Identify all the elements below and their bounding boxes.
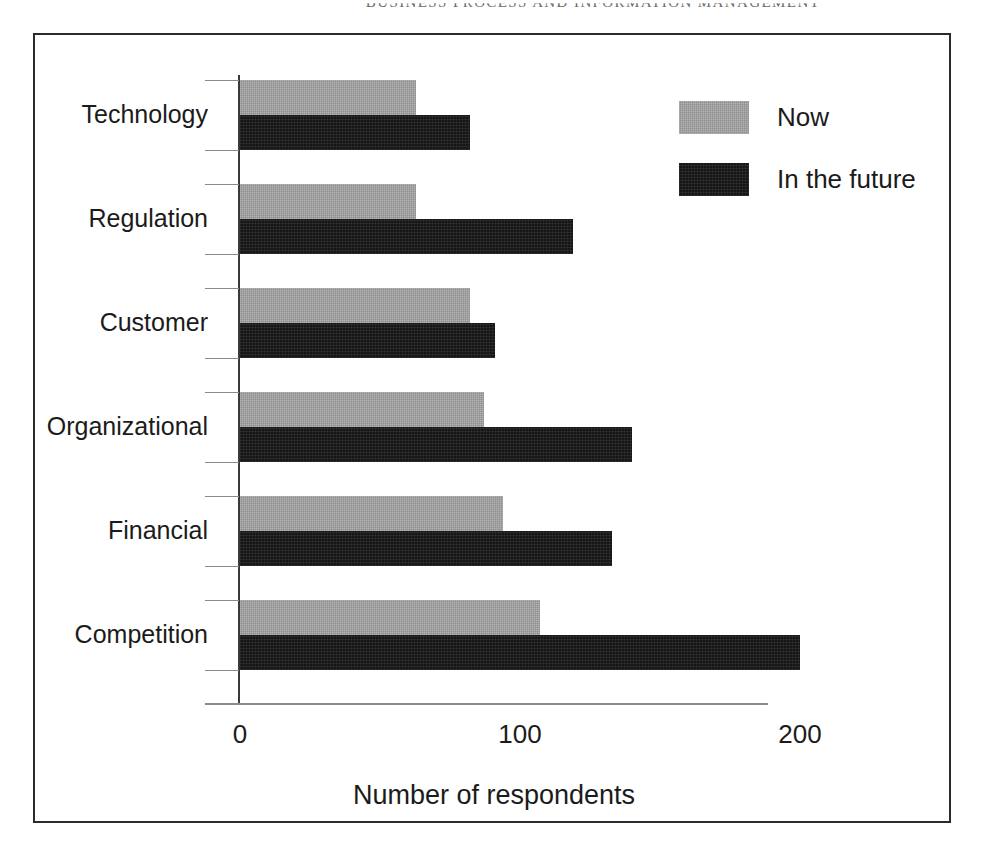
y-axis-tick [205,288,239,289]
bar-competition-now [240,600,540,635]
x-axis-title: Number of respondents [35,780,953,811]
legend-label-future: In the future [777,163,916,195]
y-axis-tick [205,462,239,463]
bar-financial-now [240,496,503,531]
bar-customer-now [240,288,470,323]
y-axis-tick [205,150,239,151]
y-axis-tick [205,392,239,393]
category-label-technology: Technology [82,102,208,127]
legend-item-future[interactable]: In the future [679,155,939,217]
bar-competition-in-the-future [240,635,800,670]
legend-label-now: Now [777,101,829,133]
legend-item-now[interactable]: Now [679,93,939,155]
y-axis-tick [205,496,239,497]
x-tick-label-200: 200 [778,719,821,750]
bar-organizational-now [240,392,484,427]
category-label-regulation: Regulation [88,206,208,231]
figure-frame: TechnologyRegulationCustomerOrganization… [33,33,951,823]
x-axis-line [205,703,768,705]
legend-swatch-now [679,101,749,134]
y-axis-tick [205,254,239,255]
y-axis-tick [205,566,239,567]
chart-legend: NowIn the future [679,93,939,217]
x-tick-label-0: 0 [233,719,247,750]
y-axis-tick [205,670,239,671]
category-label-financial: Financial [108,518,208,543]
bar-technology-in-the-future [240,115,470,150]
bar-regulation-now [240,184,416,219]
y-axis-tick [205,80,239,81]
bar-regulation-in-the-future [240,219,573,254]
legend-swatch-future [679,163,749,196]
x-tick-label-100: 100 [498,719,541,750]
y-axis-tick [205,184,239,185]
y-axis-tick [205,600,239,601]
category-label-organizational: Organizational [47,414,208,439]
bar-customer-in-the-future [240,323,495,358]
y-axis-tick [205,358,239,359]
category-label-competition: Competition [75,622,208,647]
bar-technology-now [240,80,416,115]
running-head-text: BUSINESS PROCESS AND INFORMATION MANAGEM… [366,0,820,8]
running-head: BUSINESS PROCESS AND INFORMATION MANAGEM… [0,0,986,8]
category-label-customer: Customer [100,310,208,335]
chart-plot-area: TechnologyRegulationCustomerOrganization… [35,35,953,825]
bar-financial-in-the-future [240,531,612,566]
bar-organizational-in-the-future [240,427,632,462]
